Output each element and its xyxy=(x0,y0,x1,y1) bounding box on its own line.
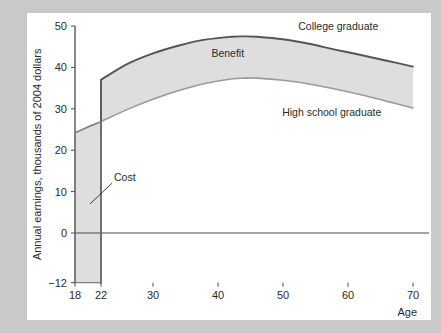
x-tick-label-70: 70 xyxy=(407,289,419,301)
x-tick-label-22: 22 xyxy=(95,289,107,301)
x-axis-title: Age xyxy=(397,306,417,318)
x-tick-label-40: 40 xyxy=(212,289,224,301)
x-tick-label-50: 50 xyxy=(277,289,289,301)
cost-label: Cost xyxy=(114,171,136,183)
y-tick-label-20: 20 xyxy=(55,144,67,156)
figure-root: 18223040506070 −1201020304050 College gr… xyxy=(0,0,441,333)
x-tick-label-60: 60 xyxy=(342,289,354,301)
y-tick-label-0: 0 xyxy=(61,227,67,239)
cost-band-area xyxy=(75,122,101,283)
benefit-label: Benefit xyxy=(211,47,244,59)
y-tick-label-50: 50 xyxy=(55,20,67,32)
y-axis-title: Annual earnings, thousands of 2004 dolla… xyxy=(31,48,43,260)
chart-panel: 18223040506070 −1201020304050 College gr… xyxy=(27,13,431,320)
college-graduate-label: College graduate xyxy=(298,20,378,32)
y-tick-label--12: −12 xyxy=(48,277,67,289)
y-tick-label-10: 10 xyxy=(55,186,67,198)
y-tick-label-30: 30 xyxy=(55,103,67,115)
y-axis-ticks: −1201020304050 xyxy=(48,20,75,289)
y-tick-label-40: 40 xyxy=(55,61,67,73)
earnings-chart: 18223040506070 −1201020304050 College gr… xyxy=(27,13,431,320)
x-tick-label-30: 30 xyxy=(147,289,159,301)
high-school-graduate-label: High school graduate xyxy=(282,106,381,118)
x-axis-ticks: 18223040506070 xyxy=(69,283,419,301)
x-tick-label-18: 18 xyxy=(69,289,81,301)
